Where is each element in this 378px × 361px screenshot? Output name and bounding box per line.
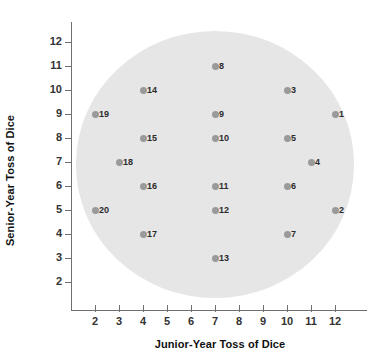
y-tick-label-10: 10 [22,83,62,95]
y-tick-label-8: 8 [22,131,62,143]
y-tick-label-12: 12 [22,35,62,47]
x-tick-11 [311,305,312,312]
data-point-label-1: 1 [339,109,344,119]
x-axis-line [71,310,367,311]
data-point-label-2: 2 [339,205,344,215]
x-tick-label-7: 7 [203,315,227,327]
data-point-label-12: 12 [219,205,229,215]
y-tick-6 [65,186,72,187]
data-point-label-17: 17 [147,229,157,239]
x-tick-label-12: 12 [323,315,347,327]
x-tick-10 [287,305,288,312]
y-tick-8 [65,138,72,139]
x-tick-8 [239,305,240,312]
y-tick-11 [65,66,72,67]
data-point-label-10: 10 [219,133,229,143]
x-axis-title: Junior-Year Toss of Dice [70,338,370,350]
data-point-3[interactable] [284,87,291,94]
data-point-5[interactable] [284,135,291,142]
data-point-label-16: 16 [147,181,157,191]
data-point-16[interactable] [140,183,147,190]
x-tick-label-9: 9 [251,315,275,327]
y-tick-2 [65,282,72,283]
x-tick-label-8: 8 [227,315,251,327]
x-tick-6 [191,305,192,312]
x-tick-label-2: 2 [83,315,107,327]
data-point-label-8: 8 [219,61,224,71]
data-point-label-11: 11 [219,181,229,191]
data-point-label-19: 19 [99,109,109,119]
data-point-11[interactable] [212,183,219,190]
y-tick-label-9: 9 [22,107,62,119]
data-point-10[interactable] [212,135,219,142]
y-tick-5 [65,210,72,211]
y-tick-9 [65,114,72,115]
data-point-label-7: 7 [291,229,296,239]
data-point-17[interactable] [140,231,147,238]
data-point-6[interactable] [284,183,291,190]
data-point-15[interactable] [140,135,147,142]
x-tick-label-3: 3 [107,315,131,327]
y-tick-7 [65,162,72,163]
data-point-13[interactable] [212,255,219,262]
data-point-14[interactable] [140,87,147,94]
y-tick-label-5: 5 [22,203,62,215]
data-point-label-5: 5 [291,133,296,143]
data-point-label-18: 18 [123,157,133,167]
y-tick-label-4: 4 [22,227,62,239]
y-tick-label-2: 2 [22,275,62,287]
x-tick-4 [143,305,144,312]
data-point-label-13: 13 [219,253,229,263]
y-tick-label-7: 7 [22,155,62,167]
data-point-label-14: 14 [147,85,157,95]
x-tick-12 [335,305,336,312]
data-point-label-3: 3 [291,85,296,95]
x-tick-3 [119,305,120,312]
y-tick-label-6: 6 [22,179,62,191]
data-point-9[interactable] [212,111,219,118]
x-tick-label-5: 5 [155,315,179,327]
y-tick-12 [65,42,72,43]
x-tick-label-11: 11 [299,315,323,327]
data-point-20[interactable] [92,207,99,214]
y-tick-label-3: 3 [22,251,62,263]
y-tick-label-11: 11 [22,59,62,71]
data-point-12[interactable] [212,207,219,214]
y-tick-4 [65,234,72,235]
data-point-19[interactable] [92,111,99,118]
data-point-18[interactable] [116,159,123,166]
data-point-1[interactable] [332,111,339,118]
data-point-7[interactable] [284,231,291,238]
data-point-label-9: 9 [219,109,224,119]
data-point-4[interactable] [308,159,315,166]
data-point-8[interactable] [212,63,219,70]
y-tick-3 [65,258,72,259]
x-tick-5 [167,305,168,312]
data-point-label-6: 6 [291,181,296,191]
x-tick-7 [215,305,216,312]
x-tick-2 [95,305,96,312]
y-axis-title: Senior-Year Toss of Dice [0,0,20,361]
data-point-label-15: 15 [147,133,157,143]
x-tick-label-6: 6 [179,315,203,327]
data-point-label-4: 4 [315,157,320,167]
x-tick-label-4: 4 [131,315,155,327]
data-point-2[interactable] [332,207,339,214]
y-tick-10 [65,90,72,91]
x-tick-9 [263,305,264,312]
x-tick-label-10: 10 [275,315,299,327]
data-point-label-20: 20 [99,205,109,215]
scatter-chart: Senior-Year Toss of Dice 23456789101112 … [0,0,378,361]
